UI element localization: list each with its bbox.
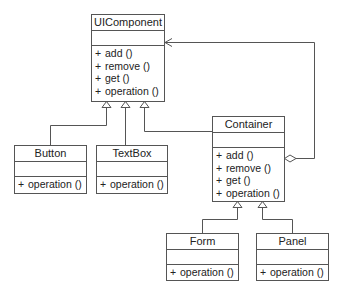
operation: +remove () xyxy=(216,162,284,175)
attributes-compartment xyxy=(97,162,167,177)
class-name: Panel xyxy=(257,234,328,250)
attributes-compartment xyxy=(167,250,238,265)
generalization-form xyxy=(203,207,238,233)
operation: +operation () xyxy=(170,266,238,279)
triangle-uicomponent-1 xyxy=(102,102,111,108)
attributes-compartment xyxy=(92,31,164,46)
operations-compartment: +add () +remove () +get () +operation () xyxy=(213,148,284,199)
operation: +operation () xyxy=(216,187,284,200)
operation: +operation () xyxy=(260,266,328,279)
class-name: Form xyxy=(167,234,238,250)
class-panel: Panel +operation () xyxy=(256,233,329,281)
operations-compartment: +add () +remove () +get () +operation () xyxy=(92,46,164,97)
operation: +remove () xyxy=(95,60,164,73)
operation: +operation () xyxy=(100,178,167,191)
attributes-compartment xyxy=(257,250,328,265)
operation: +add () xyxy=(95,47,164,60)
operations-compartment: +operation () xyxy=(167,265,238,279)
generalization-container xyxy=(145,107,213,132)
class-container: Container +add () +remove () +get () +op… xyxy=(212,116,285,202)
aggregation-diamond-icon xyxy=(285,155,297,162)
operations-compartment: +operation () xyxy=(97,177,167,191)
triangle-uicomponent-3 xyxy=(140,102,149,108)
attributes-compartment xyxy=(15,162,86,177)
class-form: Form +operation () xyxy=(166,233,239,281)
attributes-compartment xyxy=(213,133,284,148)
generalization-button xyxy=(51,107,107,145)
triangle-container-2 xyxy=(258,202,267,208)
class-textbox: TextBox +operation () xyxy=(96,145,168,194)
triangle-uicomponent-2 xyxy=(121,102,130,108)
operation: +get () xyxy=(95,72,164,85)
class-name: Container xyxy=(213,117,284,133)
generalization-panel xyxy=(263,207,293,233)
operations-compartment: +operation () xyxy=(257,265,328,279)
class-uicomponent: UIComponent +add () +remove () +get () +… xyxy=(91,14,165,102)
operation: +add () xyxy=(216,149,284,162)
uml-class-diagram: UIComponent +add () +remove () +get () +… xyxy=(0,0,343,296)
class-button: Button +operation () xyxy=(14,145,87,194)
operations-compartment: +operation () xyxy=(15,177,86,191)
triangle-container-1 xyxy=(233,202,242,208)
operation: +operation () xyxy=(95,85,164,98)
class-name: Button xyxy=(15,146,86,162)
class-name: UIComponent xyxy=(92,15,164,31)
operation: +get () xyxy=(216,174,284,187)
operation: +operation () xyxy=(18,178,86,191)
class-name: TextBox xyxy=(97,146,167,162)
